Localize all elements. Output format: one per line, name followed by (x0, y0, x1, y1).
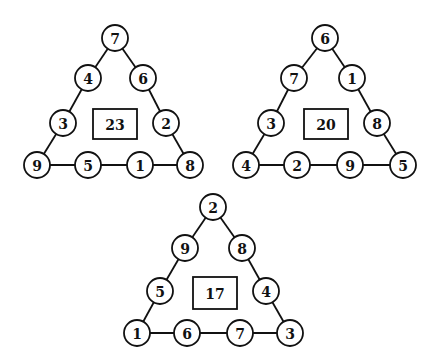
number-node: 7 (102, 25, 128, 51)
node-value: 6 (138, 71, 148, 87)
number-node: 1 (124, 320, 150, 346)
triangle-2: 67138429520 (233, 25, 416, 178)
center-value: 23 (105, 117, 124, 133)
node-value: 7 (235, 326, 245, 342)
node-value: 1 (347, 71, 357, 87)
node-value: 1 (135, 158, 145, 174)
node-value: 3 (266, 116, 276, 132)
node-value: 7 (289, 71, 299, 87)
number-node: 5 (75, 152, 101, 178)
number-node: 8 (229, 235, 255, 261)
number-node: 4 (253, 278, 279, 304)
number-node: 9 (337, 152, 363, 178)
node-value: 9 (32, 158, 42, 174)
number-node: 2 (153, 110, 179, 136)
number-node: 5 (390, 152, 416, 178)
number-node: 6 (312, 25, 338, 51)
node-value: 5 (398, 158, 408, 174)
number-node: 4 (233, 152, 259, 178)
node-value: 8 (237, 241, 247, 257)
center-box: 20 (304, 109, 348, 139)
center-box: 17 (193, 277, 237, 309)
node-value: 1 (132, 326, 142, 342)
number-node: 6 (130, 65, 156, 91)
number-triangle-puzzle: 746329518236713842952029854167317 (0, 0, 435, 364)
node-value: 4 (83, 71, 93, 87)
number-node: 1 (339, 65, 365, 91)
node-value: 9 (345, 158, 355, 174)
number-node: 8 (177, 152, 203, 178)
triangle-3: 29854167317 (124, 194, 303, 346)
number-node: 3 (277, 320, 303, 346)
number-node: 2 (200, 194, 226, 220)
node-value: 4 (241, 158, 251, 174)
number-node: 7 (281, 65, 307, 91)
number-node: 2 (284, 152, 310, 178)
node-value: 9 (180, 241, 190, 257)
node-value: 8 (372, 116, 382, 132)
node-value: 2 (208, 200, 218, 216)
center-value: 17 (205, 286, 224, 302)
number-node: 3 (258, 110, 284, 136)
number-node: 4 (75, 65, 101, 91)
number-node: 9 (24, 152, 50, 178)
number-node: 9 (172, 235, 198, 261)
node-value: 4 (261, 284, 271, 300)
number-node: 3 (50, 110, 76, 136)
node-value: 5 (83, 158, 93, 174)
triangle-1: 74632951823 (24, 25, 203, 178)
node-value: 7 (110, 31, 120, 47)
number-node: 7 (227, 320, 253, 346)
center-value: 20 (316, 117, 336, 133)
number-node: 6 (174, 320, 200, 346)
node-value: 2 (161, 116, 171, 132)
number-node: 5 (147, 278, 173, 304)
node-value: 6 (182, 326, 192, 342)
node-value: 5 (155, 284, 165, 300)
center-box: 23 (93, 109, 137, 139)
puzzle-canvas: 746329518236713842952029854167317 (0, 0, 435, 364)
number-node: 1 (127, 152, 153, 178)
node-value: 6 (320, 31, 330, 47)
node-value: 8 (185, 158, 195, 174)
number-node: 8 (364, 110, 390, 136)
node-value: 3 (285, 326, 295, 342)
node-value: 2 (292, 158, 302, 174)
node-value: 3 (58, 116, 68, 132)
